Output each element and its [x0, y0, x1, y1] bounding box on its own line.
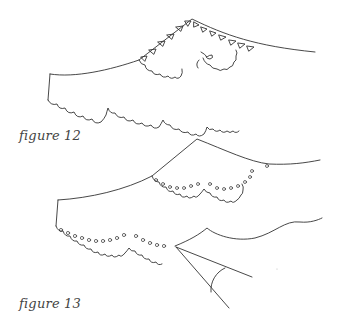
figure-12-caption: figure 12 — [19, 128, 81, 143]
figure-13-caption: figure 13 — [19, 296, 81, 311]
figure-13-drawing — [0, 0, 337, 326]
